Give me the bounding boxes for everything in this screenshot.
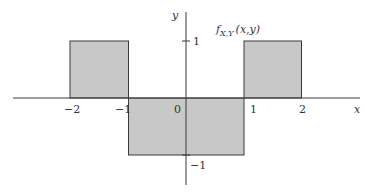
y-tick-label-minus-1: −1 bbox=[190, 159, 206, 172]
x-tick-label-minus-1: −1 bbox=[115, 103, 131, 116]
region-right-positive bbox=[244, 41, 302, 98]
y-tick-label-1: 1 bbox=[193, 35, 200, 48]
x-tick-label-0: 0 bbox=[174, 103, 181, 116]
x-axis-label: x bbox=[354, 103, 361, 116]
region-left-positive bbox=[70, 41, 129, 98]
x-tick-label-2: 2 bbox=[299, 103, 306, 116]
function-label-subscript: X,Y bbox=[219, 29, 234, 38]
x-tick-label-1: 1 bbox=[250, 103, 257, 116]
x-tick-label-minus-2: −2 bbox=[64, 103, 80, 116]
y-axis-label: y bbox=[171, 9, 179, 22]
function-label-args: (x,y) bbox=[236, 23, 261, 36]
function-label: fX,Y(x,y) bbox=[215, 23, 260, 38]
step-function-chart: y x −2 −1 0 1 2 1 −1 fX,Y(x,y) bbox=[0, 0, 365, 195]
